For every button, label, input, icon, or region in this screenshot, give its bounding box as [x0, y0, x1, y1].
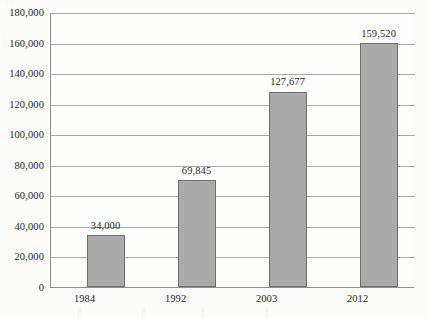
- bar-value-label: 159,520: [361, 29, 396, 40]
- bar-value-label: 69,845: [182, 166, 211, 177]
- y-axis-tick-label: 120,000: [0, 100, 44, 111]
- bar-group-2003: 127,677: [251, 13, 324, 287]
- bar-value-label: 127,677: [270, 77, 305, 88]
- y-axis-tick-label: 20,000: [0, 252, 44, 263]
- x-axis-tick-label-2012: 2012: [313, 293, 403, 304]
- bar-group-1992: 69,845: [160, 13, 233, 287]
- bar-1992[interactable]: [178, 180, 216, 287]
- y-axis-tick-label: 180,000: [0, 8, 44, 19]
- bar-value-label: 34,000: [91, 221, 120, 232]
- y-axis-tick-label: 80,000: [0, 161, 44, 172]
- y-axis-tick-label: 0: [0, 283, 44, 294]
- scan-artifact: [0, 308, 427, 318]
- x-axis-tick-label-1992: 1992: [131, 293, 221, 304]
- bar-chart-figure: 180,000 160,000 140,000 120,000 100,000 …: [0, 0, 427, 318]
- bar-group-2012: 159,520: [342, 13, 415, 287]
- plot-area: 34,000 69,845 127,677 159,520: [50, 13, 414, 288]
- y-axis-tick-label: 100,000: [0, 130, 44, 141]
- y-axis-tick-label: 60,000: [0, 191, 44, 202]
- bar-1984[interactable]: [87, 235, 125, 287]
- bar-2012[interactable]: [360, 43, 398, 287]
- y-axis-tick-label: 140,000: [0, 69, 44, 80]
- x-axis-tick-label-2003: 2003: [222, 293, 312, 304]
- bar-group-1984: 34,000: [69, 13, 142, 287]
- y-axis-tick-label: 160,000: [0, 39, 44, 50]
- bar-2003[interactable]: [269, 92, 307, 287]
- y-axis-tick-label: 40,000: [0, 222, 44, 233]
- x-axis-tick-label-1984: 1984: [40, 293, 130, 304]
